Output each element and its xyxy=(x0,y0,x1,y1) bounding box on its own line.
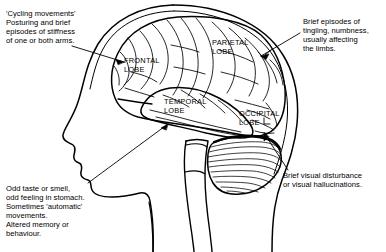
brainstem-anterior-edge xyxy=(184,141,194,252)
label-temporal-lobe: TEMPORAL LOBE xyxy=(164,98,207,115)
skull-inner-contour-back xyxy=(174,11,288,174)
cerebellum-folia xyxy=(208,142,281,193)
label-frontal-lobe: FRONTAL LOBE xyxy=(124,57,160,74)
arrowhead-temporal xyxy=(161,124,168,130)
label-occipital-lobe: OCCIPITAL LOBE xyxy=(239,110,280,127)
label-parietal-lobe: PARIETAL LOBE xyxy=(212,39,249,56)
pons-outline xyxy=(186,144,207,147)
skull-inner-contour xyxy=(90,11,174,89)
annotation-temporal-symptoms: Odd taste or smell, odd feeling in stoma… xyxy=(6,184,85,239)
central-sulcus-gyri xyxy=(167,18,213,98)
arrowhead-motor xyxy=(116,60,124,65)
medulla-line xyxy=(185,171,205,174)
annotation-motor-symptoms: 'Cycling movements' Posturing and brief … xyxy=(6,9,76,45)
leader-line-temporal xyxy=(88,124,168,183)
annotation-visual-symptoms: Brief visual disturbance or visual hallu… xyxy=(283,171,362,189)
annotation-sensory-symptoms: Brief episodes of tingling, numbness, us… xyxy=(303,17,369,53)
parietal-gyri xyxy=(212,22,283,109)
